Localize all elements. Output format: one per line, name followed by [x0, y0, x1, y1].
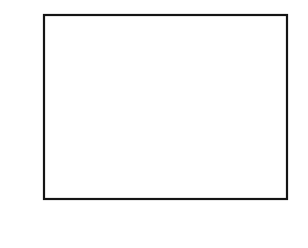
edm-ratio-line-chart — [0, 0, 308, 248]
plot-frame — [44, 15, 287, 199]
chart-figure — [0, 0, 308, 248]
